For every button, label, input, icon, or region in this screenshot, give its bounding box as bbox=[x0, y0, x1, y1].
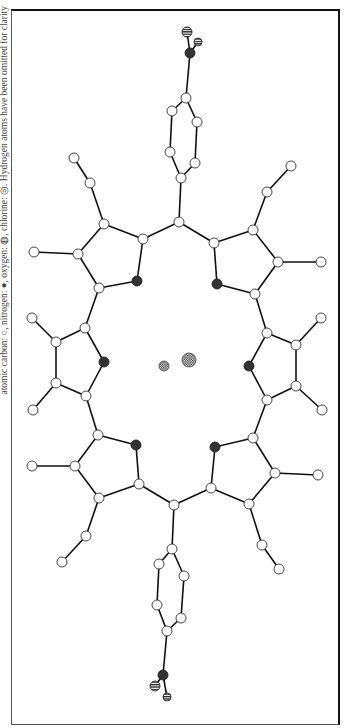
bond-line bbox=[255, 294, 267, 333]
carbon-atom-icon bbox=[206, 483, 216, 493]
bond-line bbox=[172, 505, 174, 549]
bond-line bbox=[195, 122, 197, 163]
chlorine-atom-icon bbox=[159, 361, 169, 371]
bond-line bbox=[179, 178, 181, 222]
bond-line bbox=[249, 333, 267, 366]
bond-line bbox=[186, 53, 190, 98]
bond-line bbox=[174, 488, 211, 505]
carbon-atom-icon bbox=[57, 557, 67, 567]
bond-line bbox=[296, 318, 321, 345]
carbon-atom-icon bbox=[270, 468, 280, 478]
carbon-atom-icon bbox=[291, 381, 301, 391]
bond-line bbox=[78, 254, 99, 288]
carbon-atom-icon bbox=[176, 173, 186, 183]
bond-line bbox=[179, 222, 214, 243]
bond-line bbox=[170, 111, 172, 152]
bond-line bbox=[214, 243, 217, 284]
carbon-atom-icon bbox=[73, 249, 83, 259]
bond-line bbox=[78, 224, 104, 254]
bond-line bbox=[253, 400, 267, 438]
carbon-atom-icon bbox=[28, 405, 38, 415]
carbon-atom-icon bbox=[81, 531, 91, 541]
bond-line bbox=[249, 473, 275, 504]
carbon-atom-icon bbox=[29, 247, 39, 257]
chlorine-atom-icon bbox=[182, 353, 196, 367]
bond-line bbox=[163, 631, 167, 675]
bond-line bbox=[214, 230, 253, 243]
carbon-atom-icon bbox=[248, 433, 258, 443]
oxygen-atom-icon bbox=[163, 693, 171, 701]
nitrogen-atom-icon bbox=[131, 440, 141, 450]
bond-line bbox=[217, 284, 255, 294]
carbon-atom-icon bbox=[167, 544, 177, 554]
bond-line bbox=[211, 447, 215, 488]
oxygen-atom-icon bbox=[182, 27, 192, 37]
bond-line bbox=[98, 435, 136, 445]
carbon-atom-icon bbox=[134, 479, 144, 489]
bond-line bbox=[249, 366, 267, 400]
carbon-atom-icon bbox=[162, 626, 172, 636]
bond-line bbox=[86, 396, 98, 435]
carbon-atom-icon bbox=[316, 313, 326, 323]
carbon-atom-icon bbox=[94, 493, 104, 503]
carbon-atom-icon bbox=[169, 500, 179, 510]
carbon-atom-icon bbox=[27, 461, 37, 471]
oxygen-atom-icon bbox=[150, 681, 160, 691]
carbon-atom-icon bbox=[190, 158, 200, 168]
carbon-atom-icon bbox=[138, 234, 148, 244]
molecule-structure-diagram bbox=[0, 0, 349, 728]
oxygen-atom-icon bbox=[194, 38, 202, 46]
nitrogen-atom-icon bbox=[185, 48, 195, 58]
carbon-atom-icon bbox=[93, 430, 103, 440]
bond-line bbox=[255, 262, 278, 294]
carbon-atom-icon bbox=[262, 187, 272, 197]
carbon-atom-icon bbox=[262, 328, 272, 338]
carbon-atom-icon bbox=[167, 106, 177, 116]
carbon-atom-icon bbox=[27, 313, 37, 323]
bond-line bbox=[253, 230, 278, 262]
carbon-atom-icon bbox=[51, 378, 61, 388]
bond-line bbox=[104, 224, 143, 239]
bond-line bbox=[157, 564, 159, 605]
carbon-atom-icon bbox=[176, 613, 186, 623]
carbon-atom-icon bbox=[179, 571, 189, 581]
carbon-atom-icon bbox=[317, 405, 327, 415]
bond-line bbox=[249, 504, 262, 545]
carbon-atom-icon bbox=[192, 117, 202, 127]
bond-line bbox=[86, 498, 99, 536]
bond-line bbox=[253, 438, 275, 473]
carbon-atom-icon bbox=[165, 147, 175, 157]
carbon-atom-icon bbox=[257, 540, 267, 550]
bond-line bbox=[90, 183, 104, 224]
nitrogen-atom-icon bbox=[158, 670, 168, 680]
bond-layer bbox=[32, 32, 322, 697]
carbon-atom-icon bbox=[316, 257, 326, 267]
carbon-atom-icon bbox=[152, 600, 162, 610]
bond-line bbox=[99, 484, 139, 498]
bond-line bbox=[86, 362, 104, 396]
bond-line bbox=[75, 466, 99, 498]
nitrogen-atom-icon bbox=[210, 442, 220, 452]
bond-line bbox=[136, 445, 139, 484]
carbon-atom-icon bbox=[274, 564, 284, 574]
carbon-atom-icon bbox=[51, 337, 61, 347]
bond-line bbox=[137, 239, 143, 281]
carbon-atom-icon bbox=[209, 238, 219, 248]
bond-line bbox=[211, 488, 249, 504]
bond-line bbox=[85, 288, 99, 328]
bond-line bbox=[275, 473, 318, 475]
carbon-atom-icon bbox=[250, 289, 260, 299]
carbon-atom-icon bbox=[85, 178, 95, 188]
carbon-atom-icon bbox=[80, 323, 90, 333]
carbon-atom-icon bbox=[99, 219, 109, 229]
carbon-atom-icon bbox=[313, 470, 323, 480]
carbon-atom-icon bbox=[181, 93, 191, 103]
bond-line bbox=[139, 484, 174, 505]
carbon-atom-icon bbox=[81, 391, 91, 401]
bond-line bbox=[181, 576, 184, 618]
carbon-atom-icon bbox=[94, 283, 104, 293]
bond-line bbox=[143, 222, 179, 239]
bond-line bbox=[253, 192, 267, 230]
carbon-atom-icon bbox=[70, 461, 80, 471]
carbon-atom-icon bbox=[291, 340, 301, 350]
